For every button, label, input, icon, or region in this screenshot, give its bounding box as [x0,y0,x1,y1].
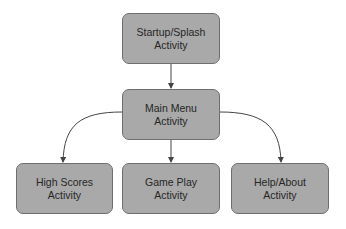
edge-main-to-scores [63,112,122,162]
node-label-line2: Activity [154,189,187,202]
node-startup-splash-activity: Startup/Splash Activity [122,13,220,64]
node-label-line2: Activity [154,115,187,128]
node-label-line1: Startup/Splash [137,26,206,39]
node-label-line1: Help/About [254,176,306,189]
node-main-menu-activity: Main Menu Activity [122,89,220,140]
node-label-line2: Activity [48,189,81,202]
node-game-play-activity: Game Play Activity [122,163,220,214]
node-high-scores-activity: High Scores Activity [16,163,113,214]
node-label-line2: Activity [263,189,296,202]
node-label-line1: Game Play [145,176,197,189]
node-label-line1: Main Menu [145,102,197,115]
edge-main-to-help [220,112,281,162]
node-label-line2: Activity [154,39,187,52]
node-label-line1: High Scores [36,176,93,189]
node-help-about-activity: Help/About Activity [231,163,329,214]
